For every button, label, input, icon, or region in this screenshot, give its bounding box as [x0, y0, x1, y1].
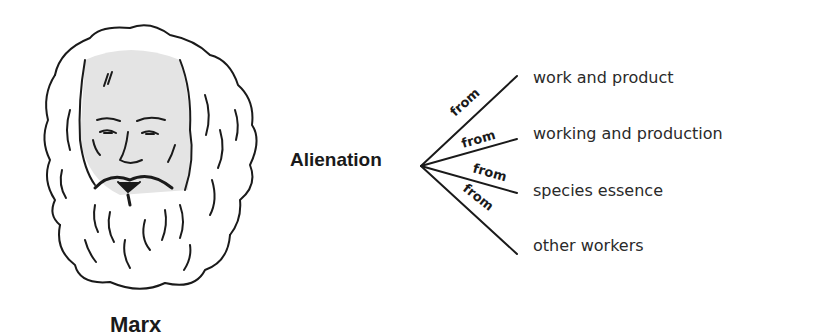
branch-target-working-and-production: working and production: [533, 124, 723, 143]
branch-lines: from from from from: [0, 0, 824, 334]
connector-label: from: [460, 127, 497, 151]
branch-target-other-workers: other workers: [533, 236, 644, 255]
branch-target-work-and-product: work and product: [533, 68, 674, 87]
branch-target-species-essence: species essence: [533, 181, 663, 200]
